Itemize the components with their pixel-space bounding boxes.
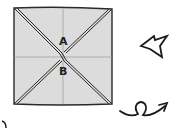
- origami-diagram: A B: [0, 0, 179, 128]
- paper-square: A B: [14, 7, 112, 105]
- label-b: B: [59, 65, 67, 78]
- turn-over-arrow-icon: [120, 102, 167, 115]
- push-in-arrow-icon: [141, 36, 167, 57]
- label-a: A: [59, 35, 68, 48]
- partial-arrow-icon: [2, 121, 6, 128]
